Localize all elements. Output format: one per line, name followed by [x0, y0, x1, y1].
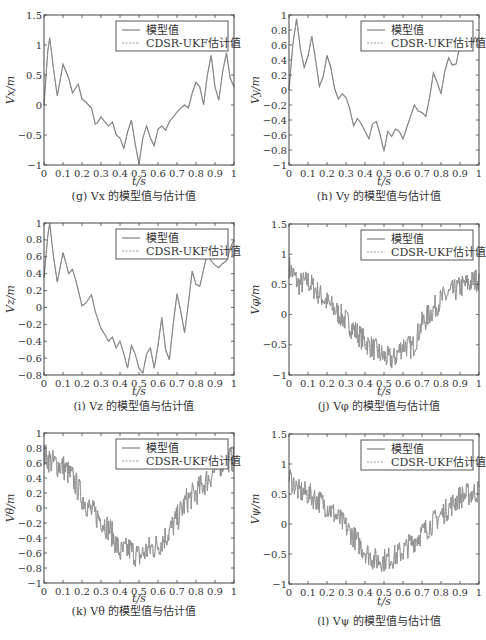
x-axis-label: t/s — [377, 175, 391, 188]
panel-caption: (g) Vx 的模型值与估计值 — [72, 189, 197, 203]
x-tick-label: 0.9 — [207, 586, 223, 597]
y-tick-label: −0.5 — [18, 130, 42, 141]
x-axis-label: t/s — [132, 592, 146, 605]
y-tick-label: 1.5 — [271, 219, 287, 230]
estimate-line — [44, 38, 234, 164]
y-tick-label: 0 — [36, 100, 42, 111]
y-tick-label: 1 — [36, 218, 42, 229]
y-tick-label: 1.5 — [271, 429, 287, 440]
x-tick-label: 0.3 — [93, 586, 109, 597]
y-tick-label: 0.8 — [26, 234, 42, 245]
x-tick-label: 0.7 — [169, 378, 185, 389]
model-line — [44, 38, 234, 164]
y-tick-label: −0.4 — [263, 115, 287, 126]
x-tick-label: 0.6 — [395, 378, 411, 389]
y-tick-label: −0.5 — [263, 549, 287, 560]
y-tick-label: −1 — [272, 370, 287, 381]
x-tick-label: 0.9 — [207, 378, 223, 389]
x-tick-label: 0.6 — [150, 168, 166, 179]
x-tick-label: 0.6 — [395, 587, 411, 598]
y-tick-label: −0.6 — [18, 353, 42, 364]
y-tick-label: −1 — [27, 160, 42, 171]
y-tick-label: −1 — [27, 578, 42, 589]
estimate-line — [289, 470, 479, 572]
y-tick-label: 0.2 — [26, 488, 42, 499]
x-tick-label: 0.2 — [74, 378, 90, 389]
legend-model-label: 模型值 — [391, 232, 424, 246]
y-tick-label: 0.4 — [271, 55, 287, 66]
legend-model-label: 模型值 — [391, 23, 424, 37]
legend: 模型值CDSR-UKF估计值 — [361, 230, 486, 260]
x-tick-label: 0.1 — [300, 168, 316, 179]
x-tick-label: 0.8 — [188, 168, 204, 179]
legend: 模型值CDSR-UKF估计值 — [361, 440, 486, 470]
chart-panel-h: 00.10.20.30.40.50.60.70.80.91−1−0.8−0.6−… — [249, 10, 486, 204]
x-tick-label: 0.2 — [319, 168, 335, 179]
y-tick-label: −0.2 — [18, 518, 42, 529]
x-tick-label: 0.1 — [300, 378, 316, 389]
figure-canvas: 00.10.20.30.40.50.60.70.80.91−1−0.500.51… — [0, 0, 486, 640]
x-axis-label: t/s — [132, 175, 146, 188]
x-tick-label: 0.7 — [169, 586, 185, 597]
x-tick-label: 0.8 — [188, 378, 204, 389]
y-tick-label: −0.8 — [263, 145, 287, 156]
legend-estimate-label: CDSR-UKF估计值 — [146, 245, 241, 258]
panel-caption: (i) Vz 的模型值与估计值 — [74, 399, 195, 413]
x-tick-label: 0.6 — [150, 378, 166, 389]
x-tick-label: 0.6 — [395, 168, 411, 179]
x-tick-label: 0.7 — [414, 587, 430, 598]
x-tick-label: 0.2 — [319, 378, 335, 389]
x-tick-label: 0.3 — [338, 378, 354, 389]
chart-panel-j: 00.10.20.30.40.50.60.70.80.91−1−0.500.51… — [249, 219, 486, 414]
legend-model-label: 模型值 — [146, 441, 179, 455]
x-tick-label: 0.1 — [55, 378, 71, 389]
legend-estimate-label: CDSR-UKF估计值 — [391, 246, 486, 259]
x-tick-label: 0.4 — [112, 586, 128, 597]
y-tick-label: 0.4 — [26, 473, 42, 484]
y-tick-label: 1 — [36, 428, 42, 439]
y-tick-label: 0 — [36, 302, 42, 313]
y-tick-label: 0.8 — [26, 443, 42, 454]
x-tick-label: 0.8 — [433, 378, 449, 389]
y-tick-label: 0.4 — [26, 268, 42, 279]
y-axis-label: Vψ/m — [249, 494, 262, 525]
x-axis-label: t/s — [132, 385, 146, 398]
x-tick-label: 0.3 — [338, 168, 354, 179]
y-tick-label: 1 — [281, 10, 287, 21]
legend: 模型值CDSR-UKF估计值 — [116, 229, 241, 259]
y-axis-label: Vz/m — [4, 285, 17, 313]
y-axis-label: Vx/m — [4, 76, 17, 104]
y-axis-label: Vθ/m — [4, 494, 17, 523]
x-tick-label: 0.2 — [74, 586, 90, 597]
panel-caption: (l) Vψ 的模型值与估计值 — [317, 614, 441, 628]
x-tick-label: 0.3 — [93, 168, 109, 179]
x-tick-label: 0.6 — [150, 586, 166, 597]
legend-model-label: 模型值 — [146, 231, 179, 245]
y-tick-label: −0.2 — [263, 100, 287, 111]
chart-panel-k: 00.10.20.30.40.50.60.70.80.91−1−0.8−0.6−… — [4, 428, 241, 619]
x-tick-label: 0.9 — [452, 378, 468, 389]
legend-estimate-label: CDSR-UKF估计值 — [146, 37, 241, 50]
y-tick-label: −0.2 — [18, 319, 42, 330]
x-tick-label: 1 — [231, 378, 237, 389]
y-tick-label: −0.6 — [263, 130, 287, 141]
legend-estimate-label: CDSR-UKF估计值 — [146, 455, 241, 468]
x-tick-label: 0.9 — [452, 168, 468, 179]
y-tick-label: 0.2 — [271, 70, 287, 81]
x-tick-label: 0.4 — [357, 168, 373, 179]
x-tick-label: 0.1 — [55, 586, 71, 597]
x-tick-label: 0.2 — [74, 168, 90, 179]
x-tick-label: 0.2 — [319, 587, 335, 598]
x-tick-label: 0.4 — [112, 378, 128, 389]
y-tick-label: 0 — [281, 85, 287, 96]
x-tick-label: 0.7 — [414, 168, 430, 179]
panel-caption: (j) Vφ 的模型值与估计值 — [318, 399, 441, 413]
y-tick-label: 1.5 — [26, 10, 42, 21]
y-axis-label: Vφ/m — [249, 285, 262, 315]
y-tick-label: 1 — [281, 459, 287, 470]
y-tick-label: 0.5 — [271, 279, 287, 290]
y-tick-label: −0.8 — [18, 563, 42, 574]
x-tick-label: 0.1 — [300, 587, 316, 598]
x-tick-label: 0.3 — [338, 587, 354, 598]
x-tick-label: 0.7 — [169, 168, 185, 179]
